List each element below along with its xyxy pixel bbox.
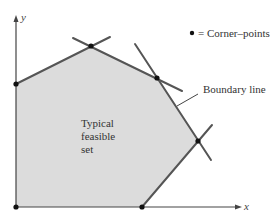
corner-point bbox=[139, 204, 144, 209]
x-axis-label: x bbox=[243, 200, 249, 212]
legend-text: = Corner–points bbox=[198, 27, 270, 39]
y-axis-arrow-icon bbox=[14, 15, 19, 22]
annotation-pointer bbox=[177, 94, 198, 106]
corner-point bbox=[154, 75, 159, 80]
region-label-line-1: Typical bbox=[81, 117, 114, 129]
corner-point bbox=[88, 43, 93, 48]
x-axis-arrow-icon bbox=[235, 205, 242, 210]
corner-point bbox=[13, 81, 18, 86]
corner-point bbox=[13, 204, 18, 209]
feasible-set-diagram: y x Typical feasible set = Corner–points… bbox=[0, 0, 278, 214]
y-axis-label: y bbox=[20, 11, 26, 23]
legend-point-icon bbox=[190, 31, 194, 35]
region-label-line-2: feasible bbox=[81, 130, 115, 142]
corner-point bbox=[195, 138, 200, 143]
region-label-line-3: set bbox=[81, 143, 93, 155]
boundary-line-label: Boundary line bbox=[203, 83, 266, 95]
